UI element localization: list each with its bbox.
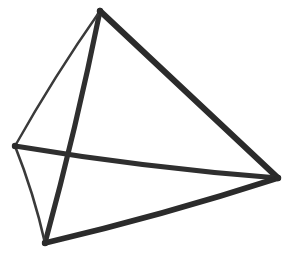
tetrahedron-wireframe: Tetrahedron wireframe sketch [0,0,293,259]
left-vertex [12,143,18,149]
figure-background [0,0,293,259]
bottom-vertex [42,240,48,246]
right-vertex [275,175,281,181]
tetrahedron-figure-canvas: Tetrahedron wireframe sketch [0,0,293,259]
top-vertex [97,8,103,14]
